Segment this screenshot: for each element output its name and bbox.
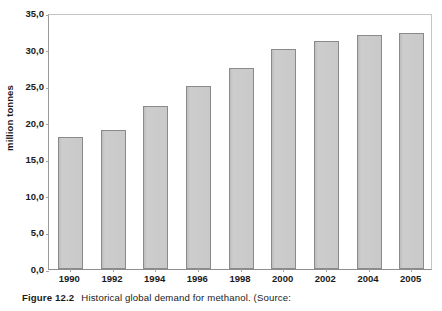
bar bbox=[101, 130, 126, 269]
bar bbox=[271, 49, 296, 269]
y-tick-mark bbox=[46, 124, 49, 125]
x-tick-mark bbox=[241, 269, 242, 272]
y-tick-label: 20,0 bbox=[16, 119, 44, 129]
y-tick-label: 15,0 bbox=[16, 155, 44, 165]
y-tick-mark bbox=[46, 271, 49, 272]
bar bbox=[399, 33, 424, 269]
x-tick-mark bbox=[326, 269, 327, 272]
x-tick-mark bbox=[155, 269, 156, 272]
figure-container: million tonnes 0,05,010,015,020,025,030,… bbox=[0, 0, 442, 311]
bar bbox=[58, 137, 83, 269]
y-tick-mark bbox=[46, 51, 49, 52]
x-tick-mark bbox=[411, 269, 412, 272]
bar bbox=[357, 35, 382, 269]
y-tick-label: 10,0 bbox=[16, 192, 44, 202]
y-tick-label: 30,0 bbox=[16, 46, 44, 56]
y-tick-label: 35,0 bbox=[16, 9, 44, 19]
figure-caption: Figure 12.2Historical global demand for … bbox=[22, 292, 432, 303]
plot-area bbox=[48, 14, 432, 270]
x-tick-label: 2005 bbox=[381, 273, 441, 284]
y-tick-label: 25,0 bbox=[16, 82, 44, 92]
y-tick-label: 5,0 bbox=[16, 228, 44, 238]
x-axis-tick-labels: 199019921994199619982000200220042005 bbox=[48, 273, 432, 287]
bar bbox=[143, 106, 168, 269]
x-tick-mark bbox=[198, 269, 199, 272]
y-axis-tick-labels: 0,05,010,015,020,025,030,035,0 bbox=[12, 14, 44, 270]
x-tick-mark bbox=[113, 269, 114, 272]
caption-text: Historical global demand for methanol. (… bbox=[81, 292, 291, 303]
bar bbox=[314, 41, 339, 269]
bar bbox=[186, 86, 211, 269]
y-tick-mark bbox=[46, 15, 49, 16]
y-tick-mark bbox=[46, 234, 49, 235]
x-tick-mark bbox=[283, 269, 284, 272]
bars-layer bbox=[49, 15, 431, 269]
y-tick-mark bbox=[46, 197, 49, 198]
bar bbox=[229, 68, 254, 269]
x-tick-mark bbox=[70, 269, 71, 272]
caption-number: Figure 12.2 bbox=[22, 292, 74, 303]
y-tick-mark bbox=[46, 88, 49, 89]
y-tick-mark bbox=[46, 161, 49, 162]
x-tick-mark bbox=[369, 269, 370, 272]
